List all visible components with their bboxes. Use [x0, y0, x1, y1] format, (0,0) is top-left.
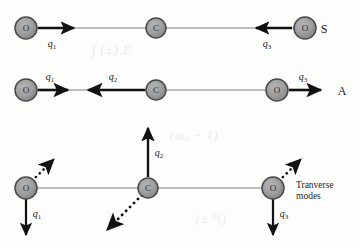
mode-label-symmetric: S: [321, 22, 328, 37]
displacement-label-q3: q3: [263, 38, 272, 49]
displacement-label-q1: q1: [33, 208, 42, 219]
atom-o-left: [15, 79, 37, 101]
displacement-label-q3: q3: [280, 208, 289, 219]
atom-c-center: [146, 18, 166, 38]
displacement-label-q2: q2: [155, 147, 164, 158]
row-transverse-modes: [15, 128, 300, 235]
molecule-vibration-figure: ∫ (±) Σ (ω₀ − 1) (± ½): [0, 0, 359, 248]
arrow-dotted-right: [279, 160, 300, 181]
displacement-label-q2: q2: [109, 71, 118, 82]
atom-c-center: [146, 80, 166, 100]
atom-o-right: [266, 79, 288, 101]
mode-label-antisymmetric: A: [338, 84, 347, 99]
atom-c-center: [138, 178, 158, 198]
mode-label-transverse: Tranverse modes: [296, 180, 358, 202]
displacement-label-q1: q1: [46, 71, 55, 82]
row-antisymmetric-stretch: [15, 79, 321, 101]
atom-o-right: [294, 17, 316, 39]
displacement-label-q1: q1: [48, 38, 57, 49]
atom-o-left: [15, 177, 37, 199]
displacement-label-q3: q3: [299, 71, 308, 82]
arrow-dotted-center: [108, 195, 142, 229]
row-symmetric-stretch: [15, 17, 316, 39]
atom-o-left: [15, 17, 37, 39]
arrow-dotted-left: [32, 160, 53, 181]
atom-o-right: [262, 177, 284, 199]
